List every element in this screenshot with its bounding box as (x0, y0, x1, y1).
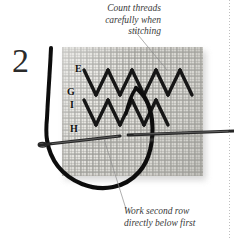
caption-bottom-line-2: directly below first (124, 218, 232, 230)
thread-tail-left (46, 48, 51, 140)
leader-line-bottom (104, 139, 126, 209)
caption-bottom: Work second row directly below first (124, 206, 232, 229)
point-label-i: I (70, 100, 74, 110)
page-rule (229, 0, 230, 238)
thread-entering-fabric (126, 88, 136, 114)
point-label-g: G (67, 87, 75, 97)
caption-top-line-2: carefully when (56, 15, 161, 27)
caption-top-line-1: Count threads (56, 3, 161, 15)
caption-top-line-3: stitching (56, 26, 161, 38)
point-label-h: H (70, 124, 78, 134)
needle (38, 131, 234, 147)
point-label-e: E (75, 64, 82, 74)
caption-top: Count threads carefully when stitching (56, 3, 161, 38)
figure-panel: 2 (0, 0, 234, 238)
caption-bottom-line-1: Work second row (124, 206, 232, 218)
